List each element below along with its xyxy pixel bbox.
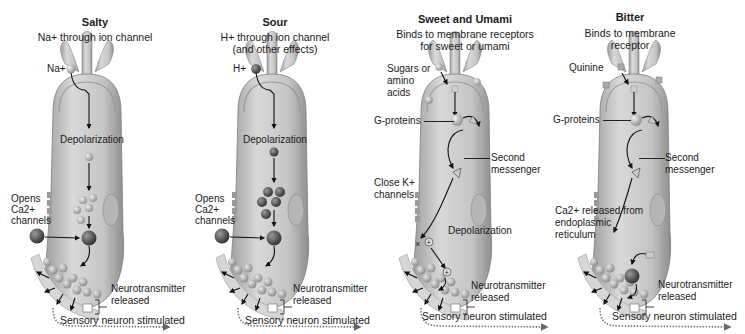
opens-ca-line-1: Opens [195,193,235,204]
ligand-label: Sugars or amino acids [387,63,430,99]
subtitle-line: Binds to membrane receptors [380,28,550,40]
panel-subtitle: Binds to membrane receptors for sweet or… [380,28,550,52]
second-messenger-leader [639,158,665,159]
second-line-1: Second [665,152,714,164]
opens-ca-label: Opens Ca2+ channels [195,193,235,226]
subtitle-line: (and other effects) [200,43,350,55]
ligand-line-1: Sugars or [387,63,430,75]
neurotransmitter-line-1: Neurotransmitter [111,283,185,295]
g-proteins-label: G-proteins [374,115,421,127]
sensory-label: Sensory neuron stimulated [612,310,737,322]
panel-sour: Sour H+ through ion channel (and other e… [190,0,380,334]
subtitle-line: H+ through ion channel [200,31,350,43]
panel-bitter: Bitter Binds to membrane receptor Quinin… [565,0,745,334]
neurotransmitter-line-1: Neurotransmitter [471,280,545,292]
ion-label: H+ [233,63,246,75]
neurotransmitter-line-2: released [658,291,732,303]
sensory-label: Sensory neuron stimulated [422,310,547,322]
second-line-2: messenger [491,164,540,176]
panel-title: Sour [240,16,310,28]
ca-release-line-3: reticulum [555,229,643,241]
opens-ca-label: Opens Ca2+ channels [11,193,51,226]
depolarization-label: Depolarization [448,225,512,237]
ligand-line-3: acids [387,87,430,99]
depolarization-label: Depolarization [243,134,307,146]
opens-ca-line-3: channels [195,215,235,226]
neurotransmitter-line-1: Neurotransmitter [293,283,367,295]
close-k-label: Close K+ channels [374,177,415,201]
panel-title: Salty [60,16,130,28]
g-proteins-label: G-proteins [553,114,600,126]
ca-release-line-1: Ca2+ released from [555,205,643,217]
second-line-2: messenger [665,164,714,176]
ca-release-line-2: endoplasmic [555,217,643,229]
ligand-label: Quinine [569,62,603,74]
second-messenger-leader [464,158,490,159]
subtitle-line: Binds to membrane [570,27,690,39]
subtitle-line: Na+ through ion channel [38,31,153,43]
panel-subtitle: H+ through ion channel (and other effect… [200,31,350,55]
second-messenger-label: Second messenger [491,152,540,176]
panel-title: Sweet and Umami [400,13,530,25]
ion-label: Na+ [47,63,66,75]
neurotransmitter-line-2: released [471,292,545,304]
subtitle-line: for sweet or umami [380,40,550,52]
neurotransmitter-line-2: released [111,295,185,307]
sensory-label: Sensory neuron stimulated [60,314,185,326]
second-line-1: Second [491,152,540,164]
g-proteins-leader [603,120,631,121]
panel-salty: Salty Na+ through ion channel Na+ Depola… [0,0,190,334]
panel-subtitle: Binds to membrane receptor [570,27,690,51]
close-k-line-2: channels [374,189,415,201]
neurotransmitter-label: Neurotransmitter released [471,280,545,304]
panel-title: Bitter [595,11,665,23]
opens-ca-line-3: channels [11,215,51,226]
opens-ca-line-2: Ca2+ [11,204,51,215]
opens-ca-line-1: Opens [11,193,51,204]
second-messenger-label: Second messenger [665,152,714,176]
sensory-label: Sensory neuron stimulated [245,314,370,326]
g-proteins-leader [424,121,454,122]
neurotransmitter-label: Neurotransmitter released [111,283,185,307]
ligand-line-2: amino [387,75,430,87]
panel-subtitle: Na+ through ion channel [20,31,170,43]
neurotransmitter-label: Neurotransmitter released [293,283,367,307]
subtitle-line: receptor [570,39,690,51]
neurotransmitter-line-2: released [293,295,367,307]
neurotransmitter-line-1: Neurotransmitter [658,279,732,291]
ca-release-label: Ca2+ released from endoplasmic reticulum [555,205,643,241]
depolarization-label: Depolarization [60,134,124,146]
opens-ca-line-2: Ca2+ [195,204,235,215]
panel-sweet-umami: Sweet and Umami Binds to membrane recept… [380,0,565,334]
close-k-line-1: Close K+ [374,177,415,189]
neurotransmitter-label: Neurotransmitter released [658,279,732,303]
